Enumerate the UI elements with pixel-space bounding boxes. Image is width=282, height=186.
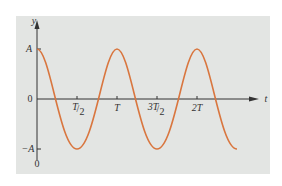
tick-2t-label: 2T	[192, 102, 204, 113]
tick-3half-den: 2	[160, 106, 165, 117]
amp-pos-label: A	[25, 43, 33, 54]
tick-t-label: T	[114, 102, 121, 113]
amp-neg-label: −A	[22, 143, 36, 154]
y-axis-label: y	[31, 15, 37, 26]
tick-half-den: 2	[80, 106, 85, 117]
x-axis-label: t	[265, 93, 268, 104]
chart-svg: y t A 0 −A 0 T / 2 T 3T / 2 2T	[0, 0, 282, 186]
zero-label: 0	[28, 93, 33, 104]
x-axis-arrow-icon	[249, 97, 259, 102]
zero-bottom-label: 0	[35, 158, 40, 169]
